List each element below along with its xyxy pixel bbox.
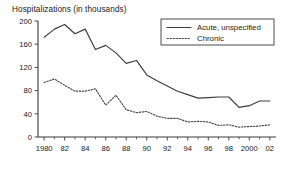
chart-container: Hospitalizations (in thousands) 04080120… — [0, 0, 283, 173]
x-tick-label: 92 — [163, 144, 171, 153]
x-tick-label: 02 — [266, 144, 274, 153]
y-tick-label: 200 — [19, 17, 32, 26]
line-chart-plot: 04080120160200 1980828486889092949698200… — [0, 0, 283, 173]
x-tick-label: 1980 — [36, 144, 53, 153]
x-tick-label: 90 — [143, 144, 151, 153]
x-tick-label: 2000 — [241, 144, 258, 153]
y-axis-ticks: 04080120160200 — [19, 17, 38, 142]
x-tick-label: 82 — [60, 144, 68, 153]
legend-label: Chronic — [197, 34, 224, 43]
y-tick-label: 120 — [19, 63, 32, 72]
y-tick-label: 160 — [19, 40, 32, 49]
x-tick-label: 96 — [204, 144, 212, 153]
x-tick-label: 88 — [122, 144, 130, 153]
chart-legend: Acute, unspecifiedChronic — [161, 19, 274, 45]
x-tick-label: 84 — [81, 144, 89, 153]
y-tick-label: 0 — [28, 133, 32, 142]
y-tick-label: 40 — [24, 110, 32, 119]
y-tick-label: 80 — [24, 86, 32, 95]
x-tick-label: 86 — [101, 144, 109, 153]
legend-label: Acute, unspecified — [197, 23, 261, 32]
x-tick-label: 94 — [184, 144, 192, 153]
x-tick-label: 98 — [225, 144, 233, 153]
series-line-chronic — [44, 79, 270, 127]
x-axis-ticks: 1980828486889092949698200002 — [36, 137, 274, 153]
